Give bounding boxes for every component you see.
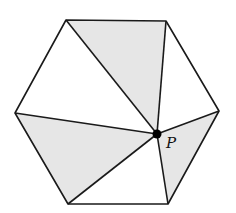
point-p <box>153 130 162 139</box>
triangle-regions <box>15 20 219 204</box>
hexagon-diagram: P <box>0 0 236 213</box>
point-p-label: P <box>165 134 177 152</box>
